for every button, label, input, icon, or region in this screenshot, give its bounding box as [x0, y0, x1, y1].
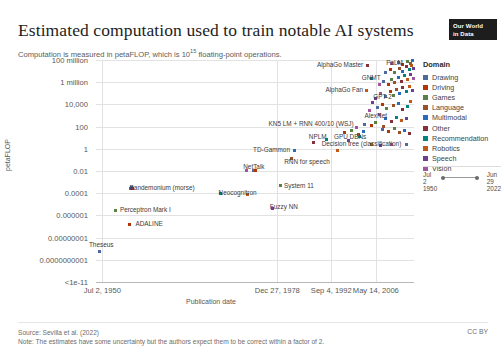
x-axis-ticks: Jul 2, 1950Dec 27, 1978Sep 4, 1992May 14… — [96, 286, 414, 298]
data-point-label: TD-Gammon — [253, 145, 290, 152]
legend-item-games[interactable]: Games — [423, 92, 504, 102]
data-point[interactable] — [412, 67, 415, 70]
logo-line-1: Our World — [453, 22, 493, 30]
scatter-plot-area[interactable]: AlphaGo MasterPaLMGNMTAlphaGo FanGPT-2Al… — [96, 60, 414, 282]
legend-item-speech[interactable]: Speech — [423, 154, 504, 164]
slider-start-day: 2 — [423, 178, 437, 185]
data-point[interactable] — [312, 141, 315, 144]
data-point[interactable] — [393, 127, 396, 130]
data-point[interactable] — [381, 128, 384, 131]
data-point-label: GPU DBNs — [334, 132, 366, 139]
data-point[interactable] — [279, 184, 282, 187]
data-point[interactable] — [408, 68, 411, 71]
gridline-vertical — [102, 60, 103, 282]
data-point[interactable] — [398, 131, 401, 134]
data-point[interactable] — [411, 59, 414, 62]
data-point[interactable] — [405, 143, 408, 146]
data-point[interactable] — [401, 108, 404, 111]
data-point[interactable] — [406, 105, 409, 108]
data-point[interactable] — [393, 71, 396, 74]
data-point[interactable] — [401, 70, 404, 73]
data-point[interactable] — [384, 71, 387, 74]
data-point[interactable] — [406, 78, 409, 81]
data-point[interactable] — [128, 223, 131, 226]
data-point[interactable] — [403, 74, 406, 77]
slider-end-month: Jun — [487, 171, 501, 178]
chart-page: Estimated computation used to train nota… — [0, 0, 504, 356]
data-point-label: PaLM — [386, 58, 403, 65]
data-point[interactable] — [98, 250, 101, 253]
data-point[interactable] — [397, 102, 400, 105]
data-point[interactable] — [392, 94, 395, 97]
y-axis-tick-label: 10,000 — [65, 100, 88, 109]
y-axis-tick-label: 100 million — [52, 56, 88, 65]
slider-start-month: Jul — [423, 171, 437, 178]
data-point[interactable] — [382, 80, 385, 83]
data-point[interactable] — [405, 117, 408, 120]
legend-item-recommendation[interactable]: Recommendation — [423, 133, 504, 143]
data-point[interactable] — [412, 77, 415, 80]
x-axis-tick-label: Dec 27, 1978 — [255, 286, 300, 295]
x-axis-tick-label: Sep 4, 1992 — [311, 286, 352, 295]
data-point[interactable] — [392, 104, 395, 107]
data-point[interactable] — [409, 100, 412, 103]
data-point[interactable] — [400, 119, 403, 122]
data-point[interactable] — [393, 81, 396, 84]
gridline-horizontal — [96, 238, 414, 239]
slider-start-date[interactable]: Jul 2 1950 — [423, 171, 437, 192]
y-axis-tick-label: 0.01 — [73, 167, 88, 176]
data-point[interactable] — [366, 64, 369, 67]
data-point[interactable] — [371, 101, 374, 104]
data-point[interactable] — [381, 103, 384, 106]
data-point[interactable] — [363, 123, 366, 126]
slider-track[interactable] — [443, 177, 477, 178]
legend-item-drawing[interactable]: Drawing — [423, 72, 504, 82]
source-text[interactable]: Source: Sevilla et al. (2022) — [18, 328, 488, 337]
data-point[interactable] — [405, 90, 408, 93]
data-point[interactable] — [387, 130, 390, 133]
data-point[interactable] — [403, 129, 406, 132]
gridline-horizontal — [96, 215, 414, 216]
data-point[interactable] — [376, 106, 379, 109]
data-point[interactable] — [398, 92, 401, 95]
legend-item-driving[interactable]: Driving — [423, 82, 504, 92]
data-point[interactable] — [378, 83, 381, 86]
data-point[interactable] — [409, 73, 412, 76]
data-point[interactable] — [408, 132, 411, 135]
data-point[interactable] — [401, 86, 404, 89]
data-point[interactable] — [355, 126, 358, 129]
slider-row[interactable]: Jul 2 1950 Jun 29 2022 — [423, 171, 501, 191]
x-axis-label: Publication date — [186, 298, 236, 305]
data-point-label: NetTalk — [243, 163, 264, 170]
legend-item-other[interactable]: Other — [423, 123, 504, 133]
data-point[interactable] — [400, 80, 403, 83]
y-axis-tick-label: 0.0000000001 — [39, 255, 88, 264]
data-point[interactable] — [114, 209, 117, 212]
time-range-slider[interactable]: Jul 2 1950 Jun 29 2022 — [423, 166, 501, 191]
slider-end-date[interactable]: Jun 29 2022 — [487, 171, 501, 192]
data-point[interactable] — [389, 68, 392, 71]
data-point-label: System 11 — [284, 182, 314, 189]
data-point[interactable] — [336, 149, 339, 152]
legend-item-robotics[interactable]: Robotics — [423, 143, 504, 153]
owid-logo[interactable]: Our World in Data — [449, 19, 497, 40]
legend-item-label: Games — [432, 93, 455, 102]
data-point[interactable] — [385, 107, 388, 110]
data-point[interactable] — [374, 121, 377, 124]
legend-swatch-icon — [423, 156, 428, 161]
data-point[interactable] — [293, 149, 296, 152]
data-point[interactable] — [370, 124, 373, 127]
license-label[interactable]: CC BY — [467, 328, 488, 335]
legend-item-label: Speech — [432, 154, 456, 163]
data-point[interactable] — [411, 89, 414, 92]
data-point[interactable] — [365, 89, 368, 92]
subtitle-text-pre: Computation is measured in petaFLOP, whi… — [18, 50, 190, 59]
data-point[interactable] — [408, 85, 411, 88]
data-point[interactable] — [395, 116, 398, 119]
data-point[interactable] — [387, 83, 390, 86]
legend-item-multimodal[interactable]: Multimodal — [423, 113, 504, 123]
x-axis-tick-label: Jul 2, 1950 — [84, 286, 121, 295]
data-point[interactable] — [390, 120, 393, 123]
legend-item-language[interactable]: Language — [423, 103, 504, 113]
legend-swatch-icon — [423, 75, 428, 80]
